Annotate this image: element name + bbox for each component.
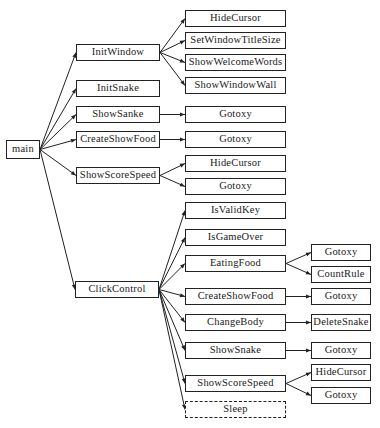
- node-gotoxy5: Gotoxy: [311, 288, 371, 305]
- edge-initwindow-to-hidecursor1: [160, 19, 185, 53]
- node-gotoxy2: Gotoxy: [185, 131, 286, 148]
- node-hidecursor3: HideCursor: [311, 364, 371, 381]
- edge-showscorespeed2-to-hidecursor3: [286, 373, 311, 384]
- node-deletesnake: DeleteSnake: [311, 314, 371, 331]
- node-setwindowtitlesize: SetWindowTitleSize: [185, 32, 286, 49]
- node-showwindowwall: ShowWindowWall: [185, 77, 286, 94]
- edge-showscorespeed1-to-gotoxy3: [160, 176, 185, 187]
- edge-clickcontrol-to-isvalidkey: [159, 211, 185, 290]
- node-hidecursor2: HideCursor: [185, 155, 286, 172]
- node-initwindow: InitWindow: [76, 44, 160, 61]
- edge-clickcontrol-to-showsnake: [159, 290, 185, 351]
- node-hidecursor1: HideCursor: [185, 10, 286, 27]
- edge-initwindow-to-setwindowtitlesize: [160, 41, 185, 53]
- node-showscorespeed1: ShowScoreSpeed: [76, 167, 160, 184]
- node-gotoxy1: Gotoxy: [185, 106, 286, 123]
- node-showsanke: ShowSanke: [76, 106, 160, 123]
- node-createshowfood2: CreateShowFood: [185, 288, 286, 305]
- node-showsnake: ShowSnake: [185, 342, 286, 359]
- node-main: main: [6, 140, 40, 159]
- node-createshowfood1: CreateShowFood: [76, 131, 160, 148]
- node-initsnake: InitSnake: [76, 80, 160, 97]
- edge-clickcontrol-to-isgameover: [159, 238, 185, 290]
- node-gotoxy6: Gotoxy: [311, 342, 371, 359]
- node-gotoxy4: Gotoxy: [311, 244, 371, 261]
- node-gotoxy3: Gotoxy: [185, 178, 286, 195]
- edge-main-to-initsnake: [40, 89, 76, 150]
- node-changebody: ChangeBody: [185, 314, 286, 331]
- node-countrule: CountRule: [311, 266, 371, 283]
- node-clickcontrol: ClickControl: [75, 281, 159, 298]
- node-isvalidkey: IsValidKey: [185, 202, 286, 219]
- node-showwelcomewords: ShowWelcomeWords: [185, 54, 286, 71]
- node-gotoxy7: Gotoxy: [311, 387, 371, 404]
- node-eatingfood: EatingFood: [185, 255, 286, 272]
- node-sleep: Sleep: [185, 401, 286, 418]
- edge-eatingfood-to-countrule: [286, 264, 311, 275]
- node-isgameover: IsGameOver: [185, 229, 286, 246]
- edge-clickcontrol-to-createshowfood2: [159, 290, 185, 297]
- edge-clickcontrol-to-sleep: [159, 290, 185, 410]
- edge-clickcontrol-to-showscorespeed2: [159, 290, 185, 384]
- edge-showscorespeed1-to-hidecursor2: [160, 164, 185, 176]
- node-showscorespeed2: ShowScoreSpeed: [185, 375, 286, 392]
- edge-showscorespeed2-to-gotoxy7: [286, 384, 311, 396]
- edge-eatingfood-to-gotoxy4: [286, 253, 311, 264]
- edge-main-to-initwindow: [40, 53, 76, 150]
